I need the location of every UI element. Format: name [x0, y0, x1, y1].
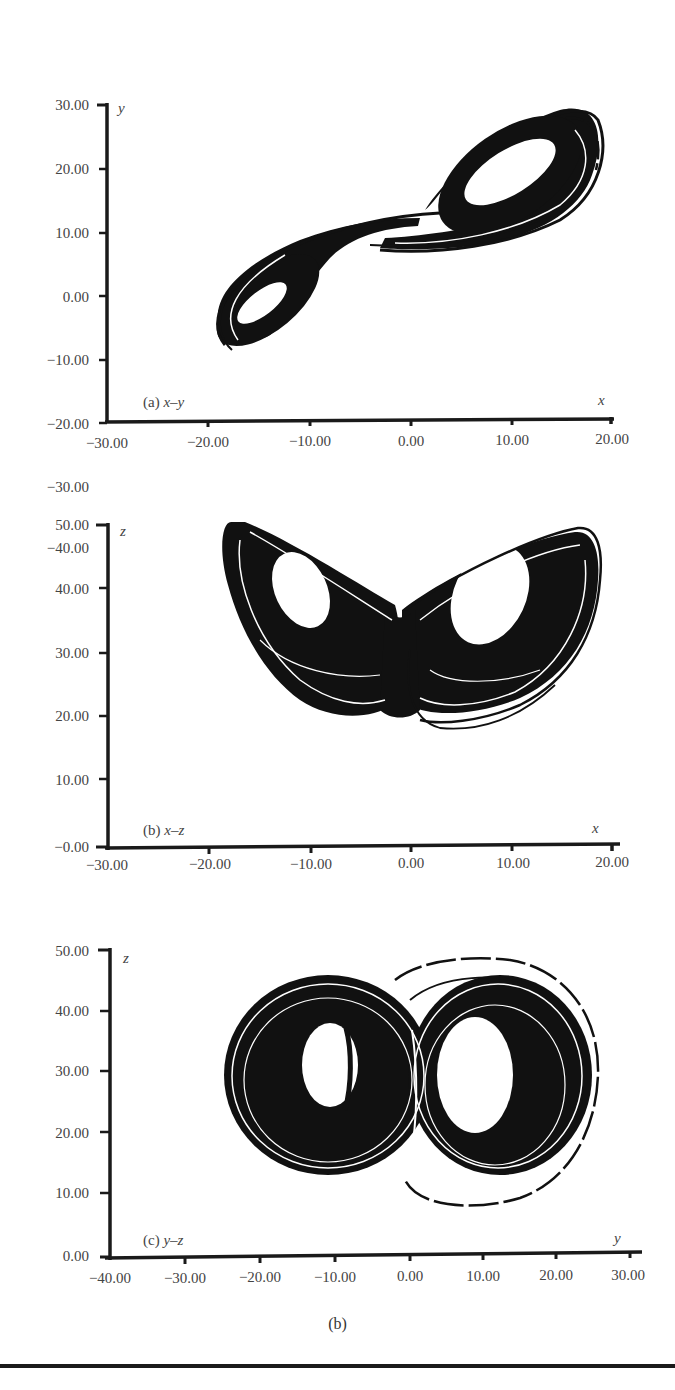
x-tick-label: −10.00 — [289, 433, 331, 449]
x-tick-label: 10.00 — [466, 1268, 500, 1284]
x-tick-label: 0.00 — [398, 855, 424, 871]
y-tick-label: 30.00 — [55, 1063, 89, 1079]
x-tick-label: 20.00 — [595, 854, 629, 870]
y-tick-label: 0.00 — [63, 289, 89, 305]
x-axis-var: x — [597, 392, 605, 408]
y-axis-var: z — [119, 523, 126, 539]
x-tick-label: 10.00 — [495, 432, 529, 448]
labels-a-svg: 30.00 20.00 10.00 0.00 −10.00 −20.00 −30… — [0, 0, 675, 460]
panel-c-yz: 50.00 40.00 30.00 20.00 10.00 0.00 −40.0… — [0, 880, 675, 1310]
x-tick-label: 0.00 — [398, 433, 424, 449]
x-tick-label: −20.00 — [187, 434, 229, 450]
bottom-rule-divider — [0, 1364, 675, 1368]
panel-label: (c) y–z — [143, 1232, 184, 1249]
y-tick-label: 50.00 — [55, 943, 89, 959]
y-tick-label: 20.00 — [55, 708, 89, 724]
y-tick-label: 10.00 — [55, 1185, 89, 1201]
x-axis-var: x — [591, 820, 599, 836]
x-tick-label: −30.00 — [86, 435, 128, 451]
x-tick-label: −20.00 — [189, 856, 231, 872]
x-tick-label: 20.00 — [539, 1267, 573, 1283]
x-tick-label: −10.00 — [314, 1269, 356, 1285]
x-tick-label: 0.00 — [397, 1268, 423, 1284]
x-tick-label: −10.00 — [290, 856, 332, 872]
y-tick-label: 40.00 — [55, 1003, 89, 1019]
x-tick-label: −40.00 — [89, 1270, 131, 1286]
panel-label: (a) x–y — [143, 394, 185, 411]
chart-b-svg: 50.00 40.00 30.00 20.00 10.00 −0.00 −30.… — [0, 470, 675, 870]
figure-caption: (b) — [0, 1315, 675, 1333]
x-axis-var: y — [612, 1230, 621, 1246]
x-tick-label: −30.00 — [164, 1270, 206, 1286]
x-tick-label: 20.00 — [595, 431, 629, 447]
y-tick-label: 20.00 — [55, 161, 89, 177]
y-tick-label: 10.00 — [55, 772, 89, 788]
y-axis-var: z — [122, 950, 129, 966]
x-tick-label: 30.00 — [611, 1267, 645, 1283]
attractor-c — [224, 958, 598, 1205]
panel-a-xy: 30.00 20.00 10.00 0.00 −10.00 −20.00 −30… — [0, 0, 675, 460]
y-tick-label: 20.00 — [55, 1125, 89, 1141]
y-tick-label: −0.00 — [54, 839, 89, 855]
y-tick-label: 40.00 — [55, 581, 89, 597]
y-axis-var: y — [116, 100, 125, 116]
chart-c-svg: 50.00 40.00 30.00 20.00 10.00 0.00 −40.0… — [0, 880, 675, 1310]
x-tick-label: −30.00 — [86, 857, 128, 873]
y-tick-label: 30.00 — [55, 97, 89, 113]
y-tick-label: 10.00 — [55, 225, 89, 241]
x-tick-label: 10.00 — [496, 855, 530, 871]
attractor-b — [222, 522, 601, 729]
y-tick-label: 50.00 — [55, 517, 89, 533]
x-tick-label: −20.00 — [239, 1269, 281, 1285]
y-tick-label: 0.00 — [63, 1248, 89, 1264]
panel-b-xz: 50.00 40.00 30.00 20.00 10.00 −0.00 −30.… — [0, 470, 675, 870]
y-tick-label: −10.00 — [47, 352, 89, 368]
y-tick-label: 30.00 — [55, 645, 89, 661]
panel-label: (b) x–z — [143, 822, 184, 839]
y-tick-label: −20.00 — [47, 416, 89, 432]
